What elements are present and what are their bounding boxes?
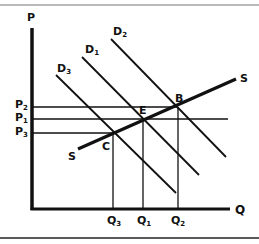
demand-curve-d2 xyxy=(111,39,226,157)
q2-label: Q2 xyxy=(171,215,185,228)
point-b-label: B xyxy=(175,93,183,104)
x-axis-label: Q xyxy=(235,204,245,216)
p3-label: P3 xyxy=(15,126,28,139)
d2-label: D2 xyxy=(113,26,127,39)
y-axis-label: P xyxy=(27,12,35,23)
d3-label: D3 xyxy=(57,63,71,76)
point-e-label: E xyxy=(139,105,147,116)
p1-label: P1 xyxy=(15,112,28,125)
point-c-label: C xyxy=(102,141,110,152)
d1-label: D1 xyxy=(85,44,99,57)
supply-curve xyxy=(78,79,236,149)
q1-label: Q1 xyxy=(137,215,151,228)
supply-label-top: S xyxy=(240,73,248,84)
q3-label: Q3 xyxy=(107,215,121,228)
supply-label-bottom: S xyxy=(68,151,76,162)
supply-demand-diagram xyxy=(0,0,259,244)
